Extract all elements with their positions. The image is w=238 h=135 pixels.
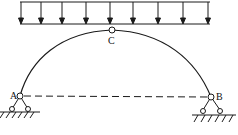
label-a: A [10,90,18,101]
support-a [0,93,40,118]
arch-curve [20,30,211,97]
tie-rod [24,96,207,97]
load-arrows [19,2,211,24]
support-b [192,94,236,122]
hinge-c [109,27,115,33]
label-b: B [216,91,223,102]
label-c: C [108,35,115,46]
distributed-load [19,2,211,24]
arch-diagram: C A B [0,0,238,135]
